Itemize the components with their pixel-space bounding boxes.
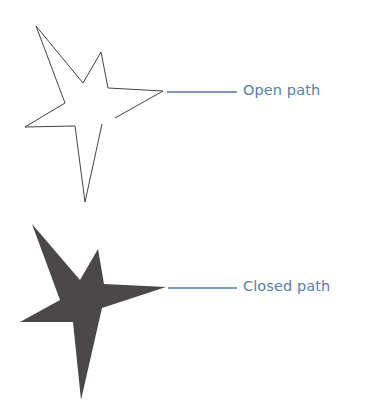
open-path-star	[25, 26, 163, 202]
open-path-label: Open path	[243, 82, 320, 98]
path-diagram	[0, 0, 372, 418]
closed-path-label: Closed path	[243, 278, 330, 294]
closed-path-star	[20, 224, 166, 400]
